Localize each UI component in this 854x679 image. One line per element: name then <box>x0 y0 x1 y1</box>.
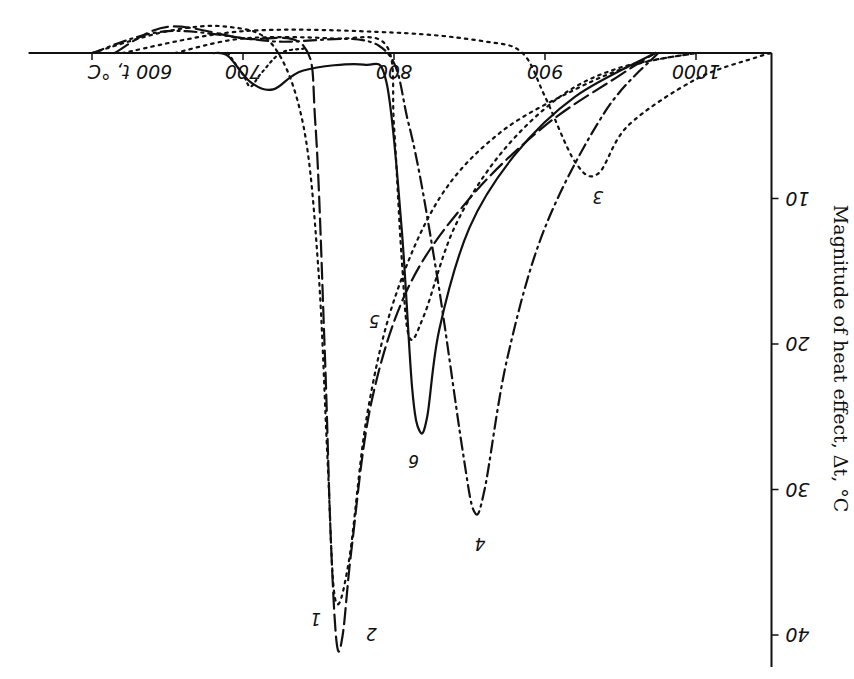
axes: 600 t, °C700800900100010203040Magnitude … <box>29 53 852 667</box>
curve-label-5: 5 <box>369 311 380 331</box>
curve-label-4: 4 <box>475 534 486 554</box>
curve-label-2: 2 <box>366 624 377 644</box>
curve-label-6: 6 <box>408 451 419 471</box>
rotated-figure: 600 t, °C700800900100010203040Magnitude … <box>29 26 852 667</box>
curve-4 <box>92 31 658 515</box>
x-tick-label: 900 <box>527 61 563 83</box>
dta-chart: 600 t, °C700800900100010203040Magnitude … <box>0 0 854 679</box>
y-tick-label: 10 <box>785 188 809 210</box>
y-tick-label: 40 <box>785 624 809 646</box>
y-tick-label: 30 <box>785 479 809 501</box>
y-axis-title: Magnitude of heat effect, Δt, °C <box>830 205 852 512</box>
x-tick-label: 600 t, °C <box>87 61 172 83</box>
curve-label-1: 1 <box>310 609 321 629</box>
curve-2 <box>115 26 656 651</box>
y-tick-label: 20 <box>785 333 809 355</box>
curves <box>92 26 772 652</box>
curve-label-3: 3 <box>592 187 603 207</box>
curve-3 <box>122 30 771 177</box>
